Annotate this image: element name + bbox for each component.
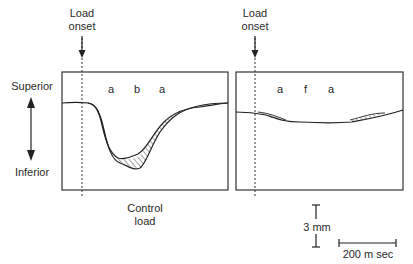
phase-letter: a	[328, 83, 334, 95]
trace-slow-left	[88, 103, 228, 169]
load-onset-label-left: Load onset	[62, 7, 102, 33]
phase-letter: a	[159, 83, 165, 95]
trace-right	[236, 110, 403, 123]
control-load-panel	[62, 36, 228, 198]
phase-letter: f	[304, 83, 307, 95]
onset-arrow-left	[79, 50, 86, 58]
onset-arrow-right	[252, 50, 259, 58]
experimental-panel	[236, 36, 403, 198]
horizontal-scale-bar	[339, 239, 396, 247]
vertical-scale-label: 3 mm	[300, 221, 334, 234]
inferior-label: Inferior	[4, 166, 60, 179]
diagram-canvas	[0, 0, 413, 264]
phase-letter: a	[108, 83, 114, 95]
load-onset-label-right: Load onset	[235, 7, 275, 33]
horizontal-scale-label: 200 m sec	[340, 248, 396, 261]
control-load-caption: Control load	[120, 202, 170, 228]
phase-letter: a	[277, 83, 283, 95]
superior-inferior-arrow	[27, 97, 35, 161]
phase-letter: b	[134, 83, 140, 95]
superior-label: Superior	[4, 80, 60, 93]
hatched-difference-area-right-2	[350, 113, 385, 122]
